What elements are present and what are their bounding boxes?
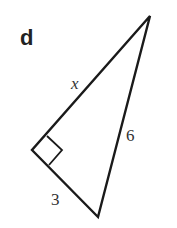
- triangle-diagram: d x 6 3: [0, 0, 177, 228]
- leg-3-label: 3: [51, 190, 60, 209]
- right-angle-marker: [47, 136, 62, 165]
- right-triangle: [32, 16, 150, 217]
- hypotenuse-label: 6: [126, 126, 135, 145]
- leg-x-label: x: [70, 74, 79, 93]
- part-label: d: [20, 25, 33, 50]
